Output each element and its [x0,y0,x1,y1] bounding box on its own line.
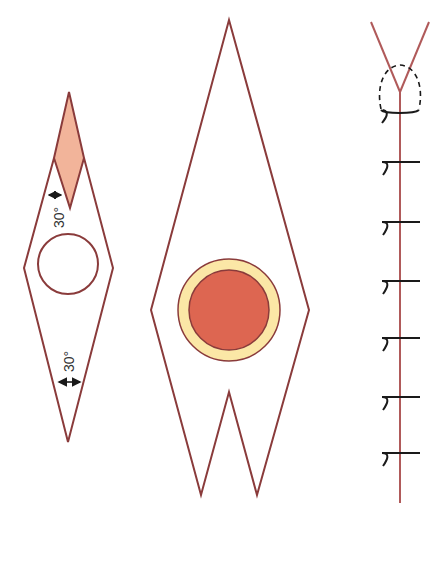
top-flap [54,92,84,208]
middle-template-shape [151,20,309,495]
hole-circle [38,234,98,294]
inner-core [189,270,269,350]
middle-outline [151,20,309,495]
diagram-canvas: 30° 30° [0,0,439,561]
y-arm-right [400,22,429,92]
angle-label-top: 30° [51,207,67,228]
left-template-shape: 30° 30° [24,92,113,442]
angle-label-bottom: 30° [61,351,77,372]
right-stitch-diagram [371,22,429,503]
y-arm-left [371,22,400,92]
